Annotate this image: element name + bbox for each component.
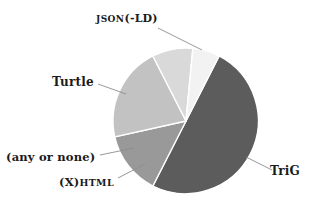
pie-label-trig: TriG	[270, 165, 300, 177]
pie-chart-figure: JSON(-LD) Turtle (any or none) (X)HTML T…	[0, 0, 317, 207]
json-ld-leader	[158, 28, 202, 50]
pie-label-xhtml-prefix: (X)	[59, 175, 79, 189]
pie-label-xhtml-suffix: HTML	[79, 177, 114, 188]
pie-label-json-ld: JSON(-LD)	[96, 13, 158, 24]
pie-label-xhtml: (X)HTML	[59, 177, 114, 189]
trig-leader	[246, 157, 272, 170]
pie-label-json-ld-suffix: (-LD)	[124, 12, 157, 25]
pie-label-any-or-none: (any or none)	[6, 152, 95, 164]
pie-slices-group	[113, 48, 258, 194]
pie-label-turtle: Turtle	[52, 76, 94, 88]
pie-label-json-ld-prefix: JSON	[96, 14, 124, 24]
